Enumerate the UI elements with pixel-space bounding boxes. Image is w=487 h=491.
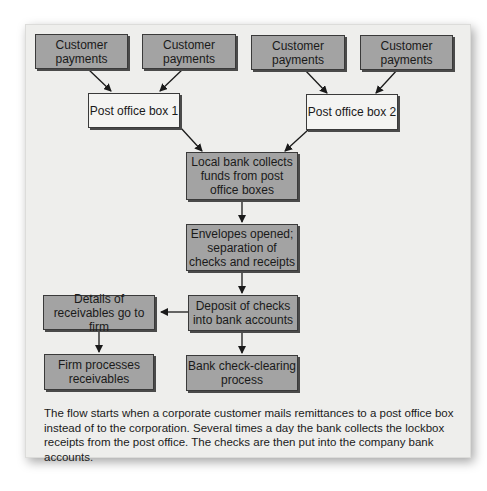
check-clearing-box: Bank check-clearing process bbox=[186, 355, 298, 391]
customer-payments-box-3: Customer payments bbox=[251, 35, 345, 70]
figure-caption: The flow starts when a corporate custome… bbox=[44, 406, 464, 464]
details-receivables-box: Details of receivables go to firm bbox=[43, 295, 155, 330]
envelopes-opened-box: Envelopes opened; separation of checks a… bbox=[186, 224, 298, 271]
post-office-box-2: Post office box 2 bbox=[306, 94, 398, 130]
post-office-box-1: Post office box 1 bbox=[88, 93, 180, 128]
customer-payments-box-2: Customer payments bbox=[142, 34, 236, 69]
local-bank-box: Local bank collects funds from post offi… bbox=[186, 152, 298, 200]
customer-payments-box-1: Customer payments bbox=[35, 34, 128, 69]
customer-payments-box-4: Customer payments bbox=[360, 35, 453, 70]
firm-processes-box: Firm processes receivables bbox=[44, 354, 154, 390]
deposit-checks-box: Deposit of checks into bank accounts bbox=[188, 295, 298, 331]
